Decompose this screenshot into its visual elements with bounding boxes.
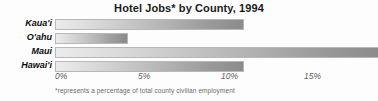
bar-row: Maui: [0, 47, 378, 58]
category-label-oahu: O'ahu: [0, 32, 52, 43]
bar-maui[interactable]: [55, 47, 378, 58]
x-tick-label: 0%: [55, 70, 67, 82]
x-axis: 0% 5% 10% 15%: [0, 70, 378, 84]
x-tick-label: 5%: [138, 70, 150, 82]
bar-oahu[interactable]: [55, 33, 128, 44]
hotel-jobs-bar-chart: Hotel Jobs* by County, 1994 Kaua'i O'ahu…: [0, 0, 378, 101]
bar-row: O'ahu: [0, 33, 378, 44]
plot-area: Kaua'i O'ahu Maui Hawai'i: [0, 18, 378, 70]
chart-title: Hotel Jobs* by County, 1994: [0, 2, 378, 14]
category-label-maui: Maui: [0, 46, 52, 57]
x-tick-label: 10%: [221, 70, 238, 82]
category-label-kauai: Kaua'i: [0, 18, 52, 29]
x-tick-label: 15%: [304, 70, 321, 82]
bar-kauai[interactable]: [55, 19, 244, 30]
chart-footnote: *represents a percentage of total county…: [55, 87, 235, 94]
bar-row: Kaua'i: [0, 19, 378, 30]
